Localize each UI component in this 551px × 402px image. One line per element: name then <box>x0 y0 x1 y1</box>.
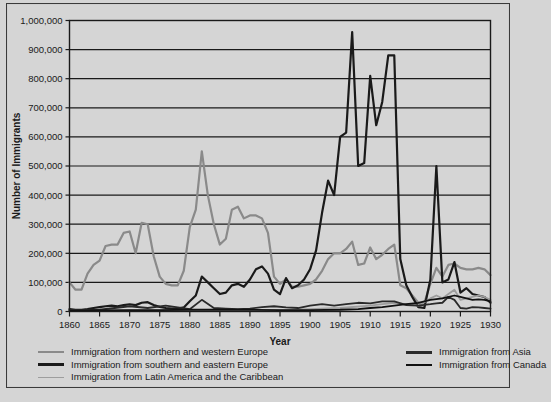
legend-item: Immigration from southern and eastern Eu… <box>38 359 338 372</box>
legend-item-label: Immigration from Latin America and the C… <box>71 371 283 384</box>
y-tick-label: 300,000 <box>28 219 62 230</box>
legend-item: Immigration from northern and western Eu… <box>38 346 338 359</box>
legend-column-right: Immigration from AsiaImmigration from Ca… <box>406 346 551 371</box>
legend-color-swatch <box>406 364 432 367</box>
y-tick-label: 500,000 <box>28 160 62 171</box>
y-tick-label: 600,000 <box>28 131 62 142</box>
series-line <box>70 32 491 310</box>
legend-item: Immigration from Latin America and the C… <box>38 371 338 384</box>
x-tick-label: 1890 <box>239 319 260 330</box>
axis-ticks <box>66 21 491 317</box>
legend-color-swatch <box>406 351 432 354</box>
legend-column-left: Immigration from northern and western Eu… <box>38 346 338 384</box>
x-tick-label: 1880 <box>179 319 200 330</box>
x-tick-label: 1910 <box>360 319 381 330</box>
x-tick-label: 1885 <box>209 319 230 330</box>
legend-item-label: Immigration from southern and eastern Eu… <box>71 359 268 372</box>
y-tick-label: 100,000 <box>28 277 62 288</box>
series-line <box>70 151 491 302</box>
data-series <box>70 32 491 310</box>
x-tick-label: 1905 <box>330 319 351 330</box>
x-tick-label: 1870 <box>119 319 140 330</box>
x-tick-label: 1895 <box>269 319 290 330</box>
y-tick-label: 0 <box>57 306 62 317</box>
x-tick-label: 1930 <box>480 319 501 330</box>
y-axis-title: Number of Immigrants <box>11 112 22 219</box>
x-tick-label: 1865 <box>89 319 110 330</box>
y-tick-label: 400,000 <box>28 190 62 201</box>
legend-color-swatch <box>38 377 64 379</box>
y-tick-label: 900,000 <box>28 44 62 55</box>
legend-item: Immigration from Asia <box>406 346 551 359</box>
legend-item: Immigration from Canada <box>406 359 551 372</box>
x-tick-label: 1900 <box>300 319 321 330</box>
y-axis-tick-labels: 0100,000200,000300,000400,000500,000600,… <box>20 15 62 317</box>
legend-item-label: Immigration from Asia <box>439 346 531 359</box>
legend-item-label: Immigration from Canada <box>439 359 546 372</box>
x-tick-label: 1860 <box>59 319 80 330</box>
y-tick-label: 200,000 <box>28 248 62 259</box>
x-tick-label: 1920 <box>420 319 441 330</box>
x-tick-label: 1875 <box>149 319 170 330</box>
legend-item-label: Immigration from northern and western Eu… <box>71 346 268 359</box>
y-tick-label: 1,000,000 <box>20 15 62 26</box>
x-tick-label: 1915 <box>390 319 411 330</box>
legend-color-swatch <box>38 363 64 366</box>
x-tick-label: 1925 <box>450 319 471 330</box>
legend-color-swatch <box>38 351 64 353</box>
y-tick-label: 800,000 <box>28 73 62 84</box>
y-tick-label: 700,000 <box>28 102 62 113</box>
x-axis-tick-labels: 1860186518701875188018851890189519001905… <box>59 319 501 330</box>
